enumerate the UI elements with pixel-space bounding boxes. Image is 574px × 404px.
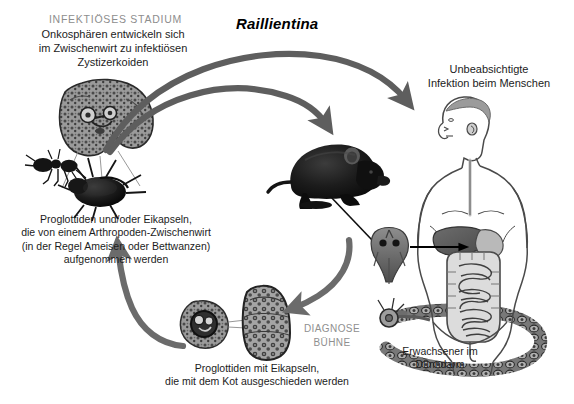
arrow-rodent-to-feces — [294, 240, 349, 308]
page-title: Raillientina — [236, 14, 318, 33]
adult-worm-label: Erwachsener im Dünndarm — [382, 345, 498, 372]
feces-stage-label: Proglottiden mit Eikapseln, die mit dem … — [144, 362, 370, 389]
life-cycle-diagram: INFEKTIÖSES STADIUM Onkosphären entwicke… — [0, 0, 574, 404]
diagnostic-stage-label: DIAGNOSE BÜHNE — [297, 322, 367, 349]
infectious-stage-heading: INFEKTIÖSES STADIUM — [28, 13, 203, 26]
infectious-stage-description: Onkosphären entwickeln sich im Zwischenw… — [8, 27, 218, 69]
arthropod-host-label: Proglottiden und/oder Eikapseln, die von… — [2, 213, 230, 267]
arrow-arthropod-to-rodent — [110, 88, 326, 152]
human-infection-label: Unbeabsichtigte Infektion beim Menschen — [408, 62, 570, 90]
